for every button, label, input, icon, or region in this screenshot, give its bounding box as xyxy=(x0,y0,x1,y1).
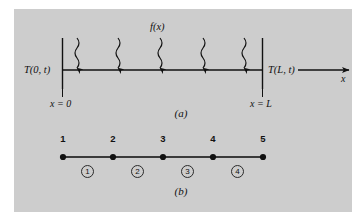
node-dot-1 xyxy=(60,154,66,160)
node-label-5: 5 xyxy=(256,134,270,144)
distributed-load-label: f(x) xyxy=(150,22,165,33)
load-arrow-2 xyxy=(116,38,120,68)
x-axis-label: x xyxy=(341,74,345,84)
element-label-3: 3 xyxy=(181,165,194,178)
element-label-4: 4 xyxy=(231,165,244,178)
distributed-load-arrows xyxy=(75,38,246,68)
node-label-4: 4 xyxy=(206,134,220,144)
right-position-label: x = L xyxy=(250,99,272,109)
caption-b: (b) xyxy=(161,186,201,197)
left-boundary-label: T(0, t) xyxy=(24,65,50,76)
left-position-label: x = 0 xyxy=(50,99,71,109)
node-dot-2 xyxy=(110,154,116,160)
element-label-1: 1 xyxy=(81,165,94,178)
node-dot-5 xyxy=(260,154,266,160)
caption-a: (a) xyxy=(161,108,201,119)
right-boundary-label: T(L, t) xyxy=(268,65,295,76)
load-arrow-3 xyxy=(158,38,162,68)
figure-container: T(0, t) T(L, t) f(x) x = 0 x = L x (a) 1… xyxy=(0,0,363,222)
load-arrow-1 xyxy=(75,38,79,68)
node-dot-4 xyxy=(210,154,216,160)
node-label-3: 3 xyxy=(156,134,170,144)
load-arrow-5 xyxy=(242,38,246,68)
load-arrow-4 xyxy=(201,38,205,68)
node-label-2: 2 xyxy=(106,134,120,144)
node-dot-3 xyxy=(160,154,166,160)
element-label-2: 2 xyxy=(131,165,144,178)
node-label-1: 1 xyxy=(56,134,70,144)
